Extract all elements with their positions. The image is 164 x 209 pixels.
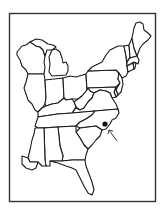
state-michigan-lower — [49, 49, 68, 76]
state-mississippi — [28, 128, 46, 166]
eastern-us-map — [0, 0, 164, 209]
state-illinois — [24, 74, 46, 112]
location-marker-dot — [102, 121, 107, 126]
state-maine — [132, 22, 151, 56]
state-florida — [50, 160, 94, 195]
arrow-icon — [108, 130, 117, 141]
state-rhode-island — [133, 63, 136, 69]
